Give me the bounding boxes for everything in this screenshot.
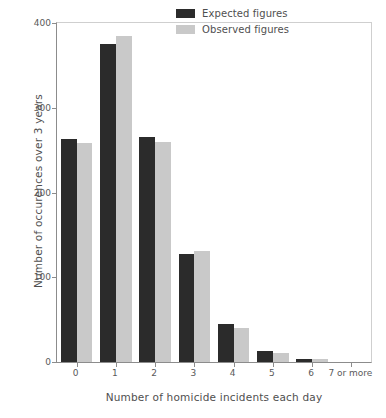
bar-expected-2 xyxy=(139,137,155,362)
y-tick-mark xyxy=(52,108,57,109)
x-tick-mark xyxy=(77,362,78,367)
legend-item-expected: Expected figures xyxy=(176,8,289,19)
y-tick-mark xyxy=(52,362,57,363)
legend-label-observed: Observed figures xyxy=(202,24,289,35)
y-tick-mark xyxy=(52,277,57,278)
bar-observed-2 xyxy=(155,142,171,362)
y-tick-label: 400 xyxy=(25,19,51,28)
x-tick-mark xyxy=(351,362,352,367)
bar-expected-5 xyxy=(257,351,273,362)
x-tick-label: 5 xyxy=(269,368,275,378)
x-tick-label: 1 xyxy=(112,368,118,378)
x-tick-label: 7 or more xyxy=(328,368,372,378)
x-tick-label: 2 xyxy=(151,368,157,378)
x-tick-label: 6 xyxy=(308,368,314,378)
x-tick-mark xyxy=(116,362,117,367)
bar-expected-1 xyxy=(100,44,116,362)
chart-legend: Expected figures Observed figures xyxy=(176,8,289,40)
y-tick-label: 200 xyxy=(25,188,51,197)
bar-observed-5 xyxy=(273,353,289,362)
y-tick-label: 0 xyxy=(25,358,51,367)
x-tick-mark xyxy=(234,362,235,367)
bar-observed-3 xyxy=(194,251,210,362)
bar-observed-6 xyxy=(312,359,328,362)
x-tick-label: 3 xyxy=(191,368,197,378)
x-tick-mark xyxy=(194,362,195,367)
x-tick-label: 0 xyxy=(73,368,79,378)
x-tick-mark xyxy=(273,362,274,367)
y-tick-label: 300 xyxy=(25,103,51,112)
legend-swatch-observed-icon xyxy=(176,25,195,34)
x-tick-mark xyxy=(312,362,313,367)
bar-chart-figure: Number of occurences over 3 years Number… xyxy=(0,0,386,418)
x-tick-label: 4 xyxy=(230,368,236,378)
x-axis-title: Number of homicide incidents each day xyxy=(46,391,382,403)
bar-expected-4 xyxy=(218,324,234,362)
bar-observed-1 xyxy=(116,36,132,362)
bar-expected-0 xyxy=(61,139,77,362)
bar-expected-3 xyxy=(179,254,195,362)
x-tick-mark xyxy=(155,362,156,367)
bar-observed-4 xyxy=(234,328,250,362)
y-tick-label: 100 xyxy=(25,273,51,282)
legend-item-observed: Observed figures xyxy=(176,24,289,35)
bar-observed-0 xyxy=(77,143,93,363)
legend-swatch-expected-icon xyxy=(176,9,195,18)
bar-expected-6 xyxy=(296,359,312,362)
y-tick-mark xyxy=(52,23,57,24)
plot-area: 0100200300400 xyxy=(56,22,372,363)
y-tick-mark xyxy=(52,193,57,194)
legend-label-expected: Expected figures xyxy=(202,8,288,19)
